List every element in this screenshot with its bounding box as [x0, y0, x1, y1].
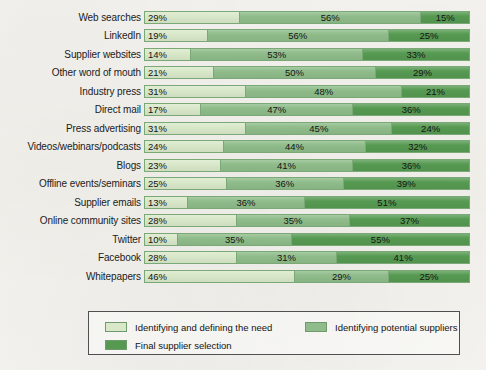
category-label: Twitter [0, 234, 144, 245]
bar-segment-1[interactable]: 14% [145, 49, 190, 60]
segment-value-label: 31% [145, 123, 245, 134]
bar-segment-3[interactable]: 24% [391, 123, 469, 134]
chart-row: Twitter10%35%55% [0, 230, 486, 249]
chart-row: Whitepapers46%29%25% [0, 267, 486, 286]
segment-value-label: 36% [227, 178, 343, 189]
bar-segment-1[interactable]: 31% [145, 86, 245, 97]
category-label: Direct mail [0, 104, 144, 115]
segment-value-label: 29% [145, 12, 239, 23]
legend-row-1: Identifying and defining the need Identi… [105, 318, 459, 336]
bar-segment-1[interactable]: 24% [145, 141, 223, 152]
bar-segment-2[interactable]: 45% [245, 123, 391, 134]
stacked-bar: 28%35%37% [144, 214, 470, 227]
chart-legend: Identifying and defining the need Identi… [88, 311, 460, 355]
bar-segment-3[interactable]: 36% [352, 160, 469, 171]
bar-segment-2[interactable]: 44% [223, 141, 366, 152]
bar-segment-2[interactable]: 56% [207, 30, 388, 41]
legend-label-final: Final supplier selection [135, 340, 232, 351]
bar-segment-2[interactable]: 47% [200, 104, 352, 115]
category-label: Supplier websites [0, 49, 144, 60]
bar-segment-3[interactable]: 51% [304, 197, 469, 208]
segment-value-label: 19% [145, 30, 207, 41]
category-label: Supplier emails [0, 197, 144, 208]
chart-row: Direct mail17%47%36% [0, 101, 486, 120]
stacked-bar: 25%36%39% [144, 177, 470, 190]
segment-value-label: 36% [353, 104, 469, 115]
bar-segment-1[interactable]: 19% [145, 30, 207, 41]
segment-value-label: 24% [392, 123, 469, 134]
category-label: Videos/webinars/podcasts [0, 141, 144, 152]
legend-item-final-supplier-selection[interactable]: Final supplier selection [105, 340, 305, 351]
bar-segment-3[interactable]: 25% [388, 30, 469, 41]
stacked-bar: 17%47%36% [144, 103, 470, 116]
chart-row: Press advertising31%45%24% [0, 119, 486, 138]
segment-value-label: 39% [344, 178, 469, 189]
legend-swatch-icon-final [105, 340, 127, 350]
bar-segment-2[interactable]: 48% [245, 86, 401, 97]
bar-segment-1[interactable]: 29% [145, 12, 239, 23]
bar-segment-2[interactable]: 35% [177, 234, 290, 245]
segment-value-label: 25% [389, 271, 469, 282]
bar-segment-1[interactable]: 17% [145, 104, 200, 115]
bar-segment-1[interactable]: 28% [145, 215, 236, 226]
category-label: Industry press [0, 86, 144, 97]
segment-value-label: 25% [145, 178, 226, 189]
legend-item-identifying-and-defining-the-need[interactable]: Identifying and defining the need [105, 322, 305, 333]
legend-label-need: Identifying and defining the need [135, 322, 272, 333]
bar-segment-1[interactable]: 25% [145, 178, 226, 189]
bar-segment-1[interactable]: 31% [145, 123, 245, 134]
bar-segment-3[interactable]: 39% [343, 178, 469, 189]
bar-segment-2[interactable]: 50% [213, 67, 375, 78]
stacked-bar: 46%29%25% [144, 270, 470, 283]
stacked-bar: 19%56%25% [144, 29, 470, 42]
chart-row: LinkedIn19%56%25% [0, 27, 486, 46]
bar-segment-3[interactable]: 15% [420, 12, 469, 23]
segment-value-label: 25% [389, 30, 469, 41]
category-label: Online community sites [0, 215, 144, 226]
segment-value-label: 35% [237, 215, 349, 226]
bar-segment-2[interactable]: 35% [236, 215, 349, 226]
legend-swatch-icon-need [105, 322, 127, 332]
segment-value-label: 21% [402, 86, 469, 97]
bar-segment-2[interactable]: 29% [294, 271, 388, 282]
bar-segment-2[interactable]: 31% [236, 252, 336, 263]
legend-item-identifying-potential-suppliers[interactable]: Identifying potential suppliers [305, 322, 458, 333]
bar-segment-3[interactable]: 41% [336, 252, 469, 263]
segment-value-label: 51% [305, 197, 469, 208]
bar-segment-2[interactable]: 36% [226, 178, 343, 189]
bar-segment-3[interactable]: 37% [349, 215, 469, 226]
stacked-bar: 21%50%29% [144, 66, 470, 79]
category-label: Press advertising [0, 123, 144, 134]
stacked-bar: 31%45%24% [144, 122, 470, 135]
bar-segment-3[interactable]: 55% [291, 234, 469, 245]
bar-segment-3[interactable]: 32% [365, 141, 469, 152]
stacked-bar: 23%41%36% [144, 159, 470, 172]
segment-value-label: 21% [145, 67, 213, 78]
segment-value-label: 13% [145, 197, 187, 208]
bar-segment-3[interactable]: 21% [401, 86, 469, 97]
bar-segment-2[interactable]: 53% [190, 49, 362, 60]
bar-segment-2[interactable]: 56% [239, 12, 420, 23]
bar-segment-1[interactable]: 46% [145, 271, 294, 282]
bar-segment-3[interactable]: 25% [388, 271, 469, 282]
segment-value-label: 45% [246, 123, 391, 134]
bar-segment-3[interactable]: 36% [352, 104, 469, 115]
stacked-bar: 29%56%15% [144, 11, 470, 24]
bar-segment-1[interactable]: 21% [145, 67, 213, 78]
bar-segment-1[interactable]: 23% [145, 160, 220, 171]
segment-value-label: 35% [178, 234, 290, 245]
bar-segment-1[interactable]: 10% [145, 234, 177, 245]
bar-segment-3[interactable]: 33% [362, 49, 469, 60]
segment-value-label: 41% [337, 252, 469, 263]
bar-segment-1[interactable]: 13% [145, 197, 187, 208]
bar-segment-2[interactable]: 36% [187, 197, 304, 208]
segment-value-label: 47% [201, 104, 352, 115]
bar-segment-1[interactable]: 28% [145, 252, 236, 263]
stacked-bar: 10%35%55% [144, 233, 470, 246]
bar-segment-2[interactable]: 41% [220, 160, 353, 171]
segment-value-label: 29% [376, 67, 469, 78]
bar-segment-3[interactable]: 29% [375, 67, 469, 78]
segment-value-label: 10% [145, 234, 177, 245]
category-label: Other word of mouth [0, 67, 144, 78]
chart-row: Offline events/seminars25%36%39% [0, 175, 486, 194]
